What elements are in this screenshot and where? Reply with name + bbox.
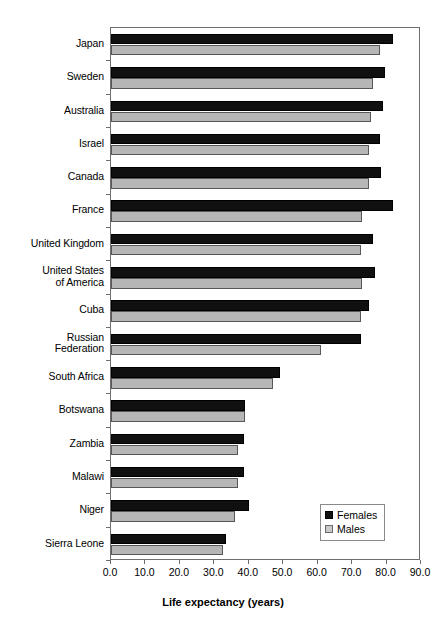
category-label: Niger — [0, 504, 104, 516]
x-axis-tick — [213, 560, 214, 564]
bar-males — [111, 445, 238, 456]
bar-females — [111, 67, 385, 78]
bar-females — [111, 134, 380, 145]
y-axis-tick — [106, 427, 110, 428]
legend-item-males: Males — [325, 522, 377, 536]
bar-males — [111, 78, 373, 89]
x-axis-title: Life expectancy (years) — [0, 596, 446, 608]
bar-females — [111, 101, 383, 112]
bar-females — [111, 167, 381, 178]
category-label: Russian Federation — [0, 332, 104, 355]
y-axis-tick — [106, 294, 110, 295]
category-label: Zambia — [0, 438, 104, 450]
chart-legend: Females Males — [320, 504, 385, 541]
bar-males — [111, 511, 235, 522]
x-axis-tick — [282, 560, 283, 564]
x-axis-tick — [420, 560, 421, 564]
category-label: Sierra Leone — [0, 538, 104, 550]
y-axis-tick — [106, 393, 110, 394]
category-label: Cuba — [0, 304, 104, 316]
x-axis-tick — [144, 560, 145, 564]
category-label: Australia — [0, 105, 104, 117]
bar-males — [111, 145, 369, 156]
bar-females — [111, 334, 361, 345]
y-axis-tick — [106, 260, 110, 261]
x-axis-tick — [386, 560, 387, 564]
x-axis-tick — [179, 560, 180, 564]
y-axis-tick — [106, 194, 110, 195]
x-axis-tick — [317, 560, 318, 564]
y-axis-tick — [106, 94, 110, 95]
bar-males — [111, 378, 273, 389]
bar-females — [111, 267, 375, 278]
y-axis-tick — [106, 327, 110, 328]
category-label: United States of America — [0, 265, 104, 288]
bar-females — [111, 300, 369, 311]
legend-swatch-females-icon — [325, 511, 333, 519]
bar-females — [111, 500, 249, 511]
bar-males — [111, 211, 362, 222]
x-axis-tick-label: 90.0 — [397, 566, 443, 579]
category-label: Canada — [0, 171, 104, 183]
y-axis-tick — [106, 493, 110, 494]
legend-label-males: Males — [337, 523, 365, 535]
bar-males — [111, 178, 369, 189]
bar-females — [111, 434, 244, 445]
bar-males — [111, 478, 238, 489]
y-axis-tick — [106, 127, 110, 128]
x-axis-tick — [110, 560, 111, 564]
bar-males — [111, 545, 223, 556]
category-axis: JapanSwedenAustraliaIsraelCanadaFranceUn… — [0, 27, 104, 560]
y-axis-tick — [106, 227, 110, 228]
x-axis-tick — [248, 560, 249, 564]
bar-females — [111, 534, 226, 545]
y-axis-tick — [106, 527, 110, 528]
life-expectancy-bar-chart: JapanSwedenAustraliaIsraelCanadaFranceUn… — [0, 0, 446, 628]
y-axis-tick — [106, 60, 110, 61]
bar-females — [111, 367, 280, 378]
bar-females — [111, 234, 373, 245]
category-label: Israel — [0, 138, 104, 150]
plot-area — [110, 27, 420, 560]
bar-females — [111, 200, 393, 211]
bar-females — [111, 34, 393, 45]
bar-females — [111, 400, 245, 411]
legend-item-females: Females — [325, 508, 377, 522]
category-label: United Kingdom — [0, 238, 104, 250]
bar-males — [111, 311, 361, 322]
bar-males — [111, 345, 321, 356]
bar-females — [111, 467, 244, 478]
category-label: Sweden — [0, 71, 104, 83]
x-axis-tick — [351, 560, 352, 564]
legend-label-females: Females — [337, 509, 377, 521]
category-label: Japan — [0, 38, 104, 50]
legend-swatch-males-icon — [325, 525, 333, 533]
y-axis-tick — [106, 160, 110, 161]
y-axis-tick — [106, 360, 110, 361]
y-axis-tick — [106, 460, 110, 461]
category-label: South Africa — [0, 371, 104, 383]
bar-males — [111, 112, 371, 123]
category-label: Malawi — [0, 471, 104, 483]
bar-males — [111, 278, 362, 289]
category-label: France — [0, 204, 104, 216]
bar-males — [111, 245, 361, 256]
bar-males — [111, 411, 245, 422]
category-label: Botswana — [0, 404, 104, 416]
bar-males — [111, 45, 380, 56]
